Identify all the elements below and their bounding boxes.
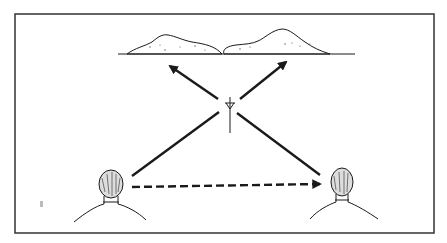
line-left-person-to-tower — [132, 112, 219, 176]
radio-tower-icon — [225, 97, 235, 133]
margin-mark — [40, 201, 43, 207]
figure-frame — [15, 14, 434, 233]
diagram-canvas — [0, 0, 447, 243]
person-left-icon — [74, 170, 146, 222]
arrow-direct-path — [132, 184, 320, 187]
line-tower-to-right-person — [237, 113, 320, 175]
person-right-icon — [310, 168, 378, 219]
arrow-tower-to-right-hill — [240, 62, 286, 99]
mountains-icon — [127, 29, 330, 54]
arrow-tower-to-left-hill — [170, 66, 218, 99]
